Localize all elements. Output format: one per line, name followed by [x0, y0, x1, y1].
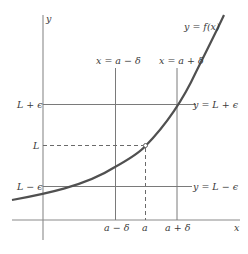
horizontal-line-label-L-minus-eps: y = L − ϵ [192, 181, 239, 192]
tick-label-a-plus-delta: a + δ [165, 222, 191, 233]
epsilon-delta-diagram: y x y = f(x) x = a − δ x = a + δ y = L +… [0, 0, 248, 254]
tick-label-a-minus-delta: a − δ [104, 222, 130, 233]
tick-label-L-plus-eps: L + ϵ [16, 99, 43, 110]
vertical-line-label-a-minus-delta: x = a − δ [96, 55, 141, 66]
curve-label: y = f(x) [183, 21, 220, 32]
tick-label-a: a [142, 222, 148, 233]
horizontal-line-label-L-plus-eps: y = L + ϵ [192, 99, 239, 110]
x-axis-label: x [234, 222, 240, 233]
tick-label-L-minus-eps: L − ϵ [16, 181, 43, 192]
vertical-line-label-a-plus-delta: x = a + δ [159, 55, 204, 66]
tick-label-L: L [32, 140, 39, 151]
y-axis-label: y [45, 13, 52, 24]
open-point-a-L [144, 144, 148, 148]
